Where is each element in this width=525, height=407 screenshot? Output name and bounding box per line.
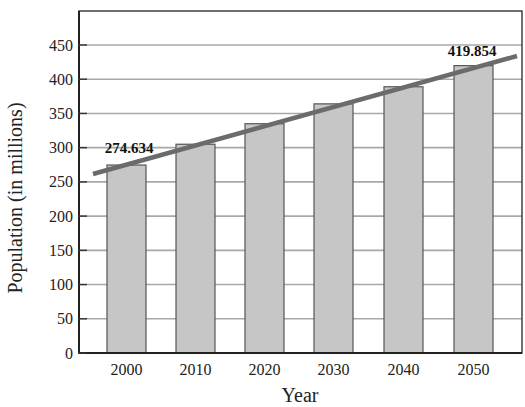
x-tick-label: 2020 [249, 361, 281, 378]
data-label-2000: 274.634 [105, 140, 154, 156]
x-axis-title: Year [282, 384, 319, 406]
bar-2050 [454, 66, 493, 353]
y-tick-label: 450 [49, 37, 73, 54]
x-tick-label: 2000 [111, 361, 143, 378]
x-tick-label: 2050 [458, 361, 490, 378]
x-tick-label: 2030 [318, 361, 350, 378]
population-bar-chart: 050100150200250300350400450 200020102020… [0, 0, 525, 407]
y-tick-label: 200 [49, 208, 73, 225]
y-tick-label: 50 [57, 310, 73, 327]
bar-2030 [314, 104, 353, 353]
y-tick-label: 150 [49, 242, 73, 259]
y-tick-label: 350 [49, 105, 73, 122]
y-tick-label: 0 [65, 345, 73, 362]
x-axis-ticks: 200020102020203020402050 [111, 361, 490, 378]
trend-line-path [93, 56, 517, 174]
bar-2000 [107, 165, 146, 353]
x-tick-label: 2010 [180, 361, 212, 378]
bars [107, 66, 493, 353]
bar-2040 [384, 87, 423, 353]
y-tick-label: 250 [49, 173, 73, 190]
data-labels: 274.634419.854 [105, 43, 497, 156]
bar-2020 [245, 124, 284, 353]
y-tick-label: 100 [49, 276, 73, 293]
y-axis-ticks: 050100150200250300350400450 [49, 37, 87, 362]
x-tick-label: 2040 [388, 361, 420, 378]
y-tick-label: 300 [49, 139, 73, 156]
y-axis-title: Population (in millions) [4, 102, 27, 293]
y-tick-label: 400 [49, 71, 73, 88]
data-label-2050: 419.854 [448, 43, 497, 59]
bar-2010 [176, 144, 215, 353]
trend-line [93, 56, 517, 174]
